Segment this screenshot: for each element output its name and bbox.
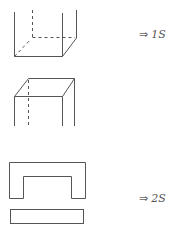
implies-arrow-icon: ⇒: [139, 192, 148, 205]
closed-top-box: [15, 79, 75, 127]
result-label-1: ⇒1S: [139, 29, 166, 40]
u-shape-net: [10, 163, 86, 199]
implies-arrow-icon: ⇒: [139, 28, 148, 41]
result-value-1: 1S: [151, 28, 166, 41]
result-label-2: ⇒2S: [139, 193, 166, 204]
result-value-2: 2S: [151, 192, 166, 205]
strip: [11, 210, 84, 224]
open-box: [15, 10, 77, 57]
